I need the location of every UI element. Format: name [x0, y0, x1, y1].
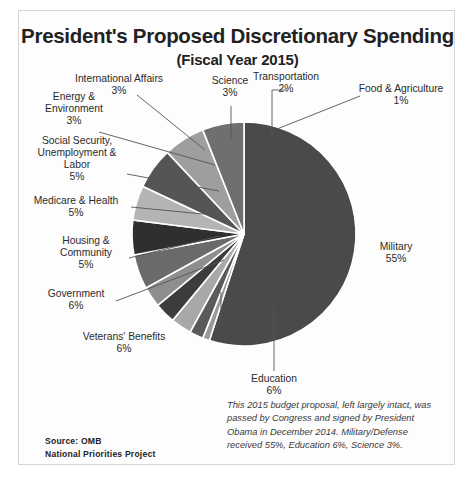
label-veterans-benefits: Veterans' Benefits 6% [74, 331, 174, 355]
label-medicare-health: Medicare & Health 5% [19, 195, 133, 219]
label-international-affairs-name: International Affairs [75, 73, 163, 84]
label-social-security-l3: Labor [64, 159, 90, 170]
label-energy-environment: Energy & Environment 3% [19, 91, 129, 127]
label-medicare-health-name: Medicare & Health [34, 195, 119, 206]
label-veterans-benefits-name: Veterans' Benefits [83, 331, 166, 342]
label-education-name: Education [251, 373, 297, 384]
label-veterans-benefits-pct: 6% [74, 343, 174, 355]
label-military-name: Military [380, 241, 413, 252]
label-education-pct: 6% [234, 385, 314, 397]
chart-frame: President's Proposed Discretionary Spend… [18, 10, 455, 465]
label-education: Education 6% [234, 373, 314, 397]
label-medicare-health-pct: 5% [19, 207, 133, 219]
label-social-security-l1: Social Security, [42, 135, 112, 146]
pie-slices [132, 122, 356, 346]
label-military-pct: 55% [357, 253, 435, 265]
source-attribution: Source: OMB National Priorities Project [45, 435, 155, 461]
label-housing-community-pct: 5% [37, 259, 135, 271]
label-government-name: Government [48, 288, 105, 299]
label-housing-community: Housing & Community 5% [37, 235, 135, 271]
label-housing-community-l1: Housing & [62, 235, 110, 246]
label-transportation-name: Transportation [253, 71, 319, 82]
chart-annotation: This 2015 budget proposal, left largely … [227, 399, 442, 453]
label-social-security: Social Security, Unemployment & Labor 5% [19, 135, 135, 184]
chart-page: President's Proposed Discretionary Spend… [0, 0, 472, 480]
label-energy-environment-l1: Energy & [53, 91, 95, 102]
source-line-2: National Priorities Project [45, 449, 155, 459]
label-food-agriculture: Food & Agriculture 1% [347, 83, 455, 107]
label-housing-community-l2: Community [60, 247, 112, 258]
label-energy-environment-l2: Environment [45, 103, 103, 114]
label-government: Government 6% [31, 288, 121, 312]
label-energy-environment-pct: 3% [19, 115, 129, 127]
label-government-pct: 6% [31, 300, 121, 312]
label-military: Military 55% [357, 241, 435, 265]
label-transportation: Transportation 2% [231, 71, 341, 95]
label-transportation-pct: 2% [231, 83, 341, 95]
label-food-agriculture-name: Food & Agriculture [359, 83, 444, 94]
label-food-agriculture-pct: 1% [347, 95, 455, 107]
source-line-1: Source: OMB [45, 436, 102, 446]
label-social-security-pct: 5% [19, 171, 135, 183]
label-social-security-l2: Unemployment & [38, 147, 117, 158]
